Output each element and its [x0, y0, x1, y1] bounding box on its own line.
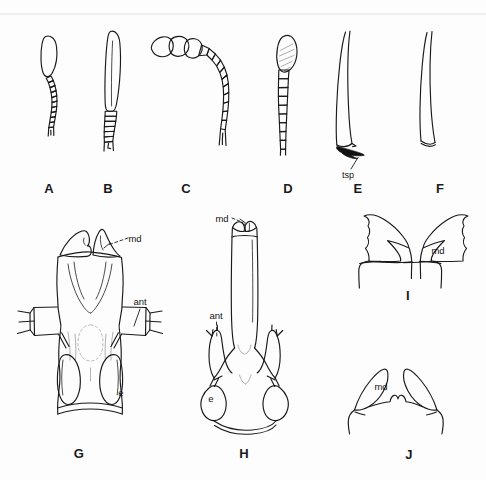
panel-c-drawing	[151, 36, 228, 145]
panel-h-drawing	[201, 218, 288, 434]
panel-letter-d: D	[283, 181, 293, 196]
figure-plate: A B C D E F G H I J tsp md ant e md ant …	[0, 0, 486, 480]
panel-b-drawing	[104, 31, 121, 151]
annotation-md-panel-i: md	[431, 245, 444, 256]
annotation-md-panel-j: md	[374, 381, 387, 392]
annotation-md-panel-h: md	[215, 213, 228, 224]
panel-letter-f: F	[436, 181, 444, 196]
panel-i-drawing	[359, 215, 468, 288]
annotation-md-panel-g: md	[128, 233, 141, 244]
illustration-canvas	[0, 0, 486, 480]
panel-letter-e: E	[354, 181, 363, 196]
panel-letter-b: B	[103, 181, 113, 196]
annotation-ant-panel-h: ant	[209, 310, 222, 321]
annotation-ant-panel-g: ant	[133, 296, 146, 307]
annotation-e-panel-h: e	[208, 393, 213, 404]
panel-letter-a: A	[44, 181, 54, 196]
panel-letter-h: H	[239, 446, 249, 461]
panel-letter-i: I	[406, 288, 410, 303]
panel-j-drawing	[348, 369, 443, 434]
panel-letter-c: C	[181, 181, 191, 196]
annotation-tsp-panel-e: tsp	[342, 170, 354, 180]
panel-letter-g: G	[74, 446, 84, 461]
panel-e-drawing	[336, 31, 364, 169]
panel-letter-j: J	[405, 447, 412, 462]
panel-g-drawing	[18, 229, 163, 414]
panel-d-drawing	[277, 35, 297, 155]
annotation-e-panel-g: e	[118, 387, 123, 398]
panel-a-drawing	[41, 36, 57, 136]
panel-f-drawing	[420, 32, 435, 147]
